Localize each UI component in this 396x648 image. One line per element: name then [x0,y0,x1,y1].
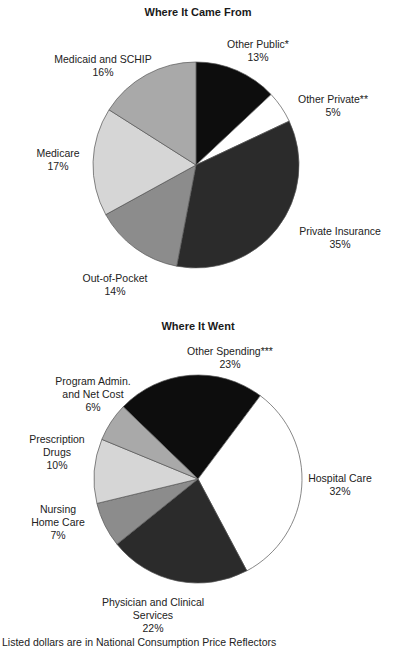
label-private-insurance: Private Insurance 35% [290,225,390,251]
label-other-public: Other Public* 13% [218,38,298,64]
label-pct: 14% [70,285,160,298]
label-medicare: Medicare 17% [28,147,88,173]
label-name: Medicare [28,147,88,160]
label-pct: 13% [218,51,298,64]
label-program-admin: Program Admin. and Net Cost 6% [48,375,138,414]
label-name: Other Spending*** [180,345,280,358]
label-pct: 6% [48,401,138,414]
label-other-spending: Other Spending*** 23% [180,345,280,371]
label-line2: Services [93,609,213,622]
label-line1: Prescription [22,433,92,446]
label-pct: 10% [22,459,92,472]
label-name: Other Private** [288,93,378,106]
label-prescription-drugs: Prescription Drugs 10% [22,433,92,472]
label-pct: 22% [93,622,213,635]
label-pct: 7% [28,529,88,542]
label-name: Other Public* [218,38,298,51]
label-name: Hospital Care [300,472,380,485]
label-line1: Nursing [28,503,88,516]
label-other-private: Other Private** 5% [288,93,378,119]
label-line2: Home Care [28,516,88,529]
label-line1: Program Admin. [48,375,138,388]
label-out-of-pocket: Out-of-Pocket 14% [70,272,160,298]
label-pct: 5% [288,106,378,119]
label-nursing-home-care: Nursing Home Care 7% [28,503,88,542]
label-medicaid-schip: Medicaid and SCHIP 16% [48,53,158,79]
label-physician-clinical: Physician and Clinical Services 22% [93,596,213,635]
footer-cutoff-text: Listed dollars are in National Consumpti… [2,636,396,648]
label-pct: 35% [290,238,390,251]
label-name: Out-of-Pocket [70,272,160,285]
label-pct: 32% [300,485,380,498]
pie-where-it-came-from [93,62,299,268]
label-pct: 23% [180,358,280,371]
label-hospital-care: Hospital Care 32% [300,472,380,498]
label-name: Medicaid and SCHIP [48,53,158,66]
label-line2: and Net Cost [48,388,138,401]
label-pct: 17% [28,160,88,173]
chart2-title: Where It Went [0,320,396,332]
label-pct: 16% [48,66,158,79]
label-line1: Physician and Clinical [93,596,213,609]
label-name: Private Insurance [290,225,390,238]
label-line2: Drugs [22,446,92,459]
